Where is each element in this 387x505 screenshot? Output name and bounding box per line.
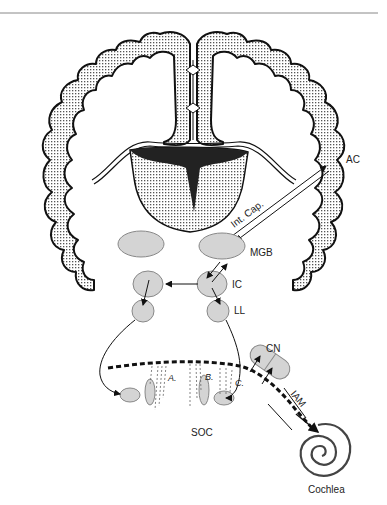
mgb-left xyxy=(118,231,164,257)
ll-right xyxy=(207,300,229,322)
pathway-arrows xyxy=(100,262,272,398)
internal-capsule-projection xyxy=(232,166,329,241)
label-soc: SOC xyxy=(191,427,213,438)
label-cn: CN xyxy=(266,343,280,354)
label-ll: LL xyxy=(234,305,246,316)
auditory-pathway-figure: Int. Cap. AC MGB IC LL CN xyxy=(0,0,387,505)
label-ic: IC xyxy=(232,279,242,290)
label-mgb: MGB xyxy=(250,247,273,258)
mgb-right xyxy=(199,233,245,259)
label-a: A. xyxy=(167,373,177,383)
ic-right xyxy=(197,271,227,297)
label-c: C. xyxy=(235,378,244,388)
label-b: B. xyxy=(205,372,214,382)
cochlea-spiral xyxy=(301,424,351,476)
label-ac: AC xyxy=(346,154,360,165)
label-iam: IAM xyxy=(288,388,308,409)
label-cochlea: Cochlea xyxy=(308,484,345,495)
